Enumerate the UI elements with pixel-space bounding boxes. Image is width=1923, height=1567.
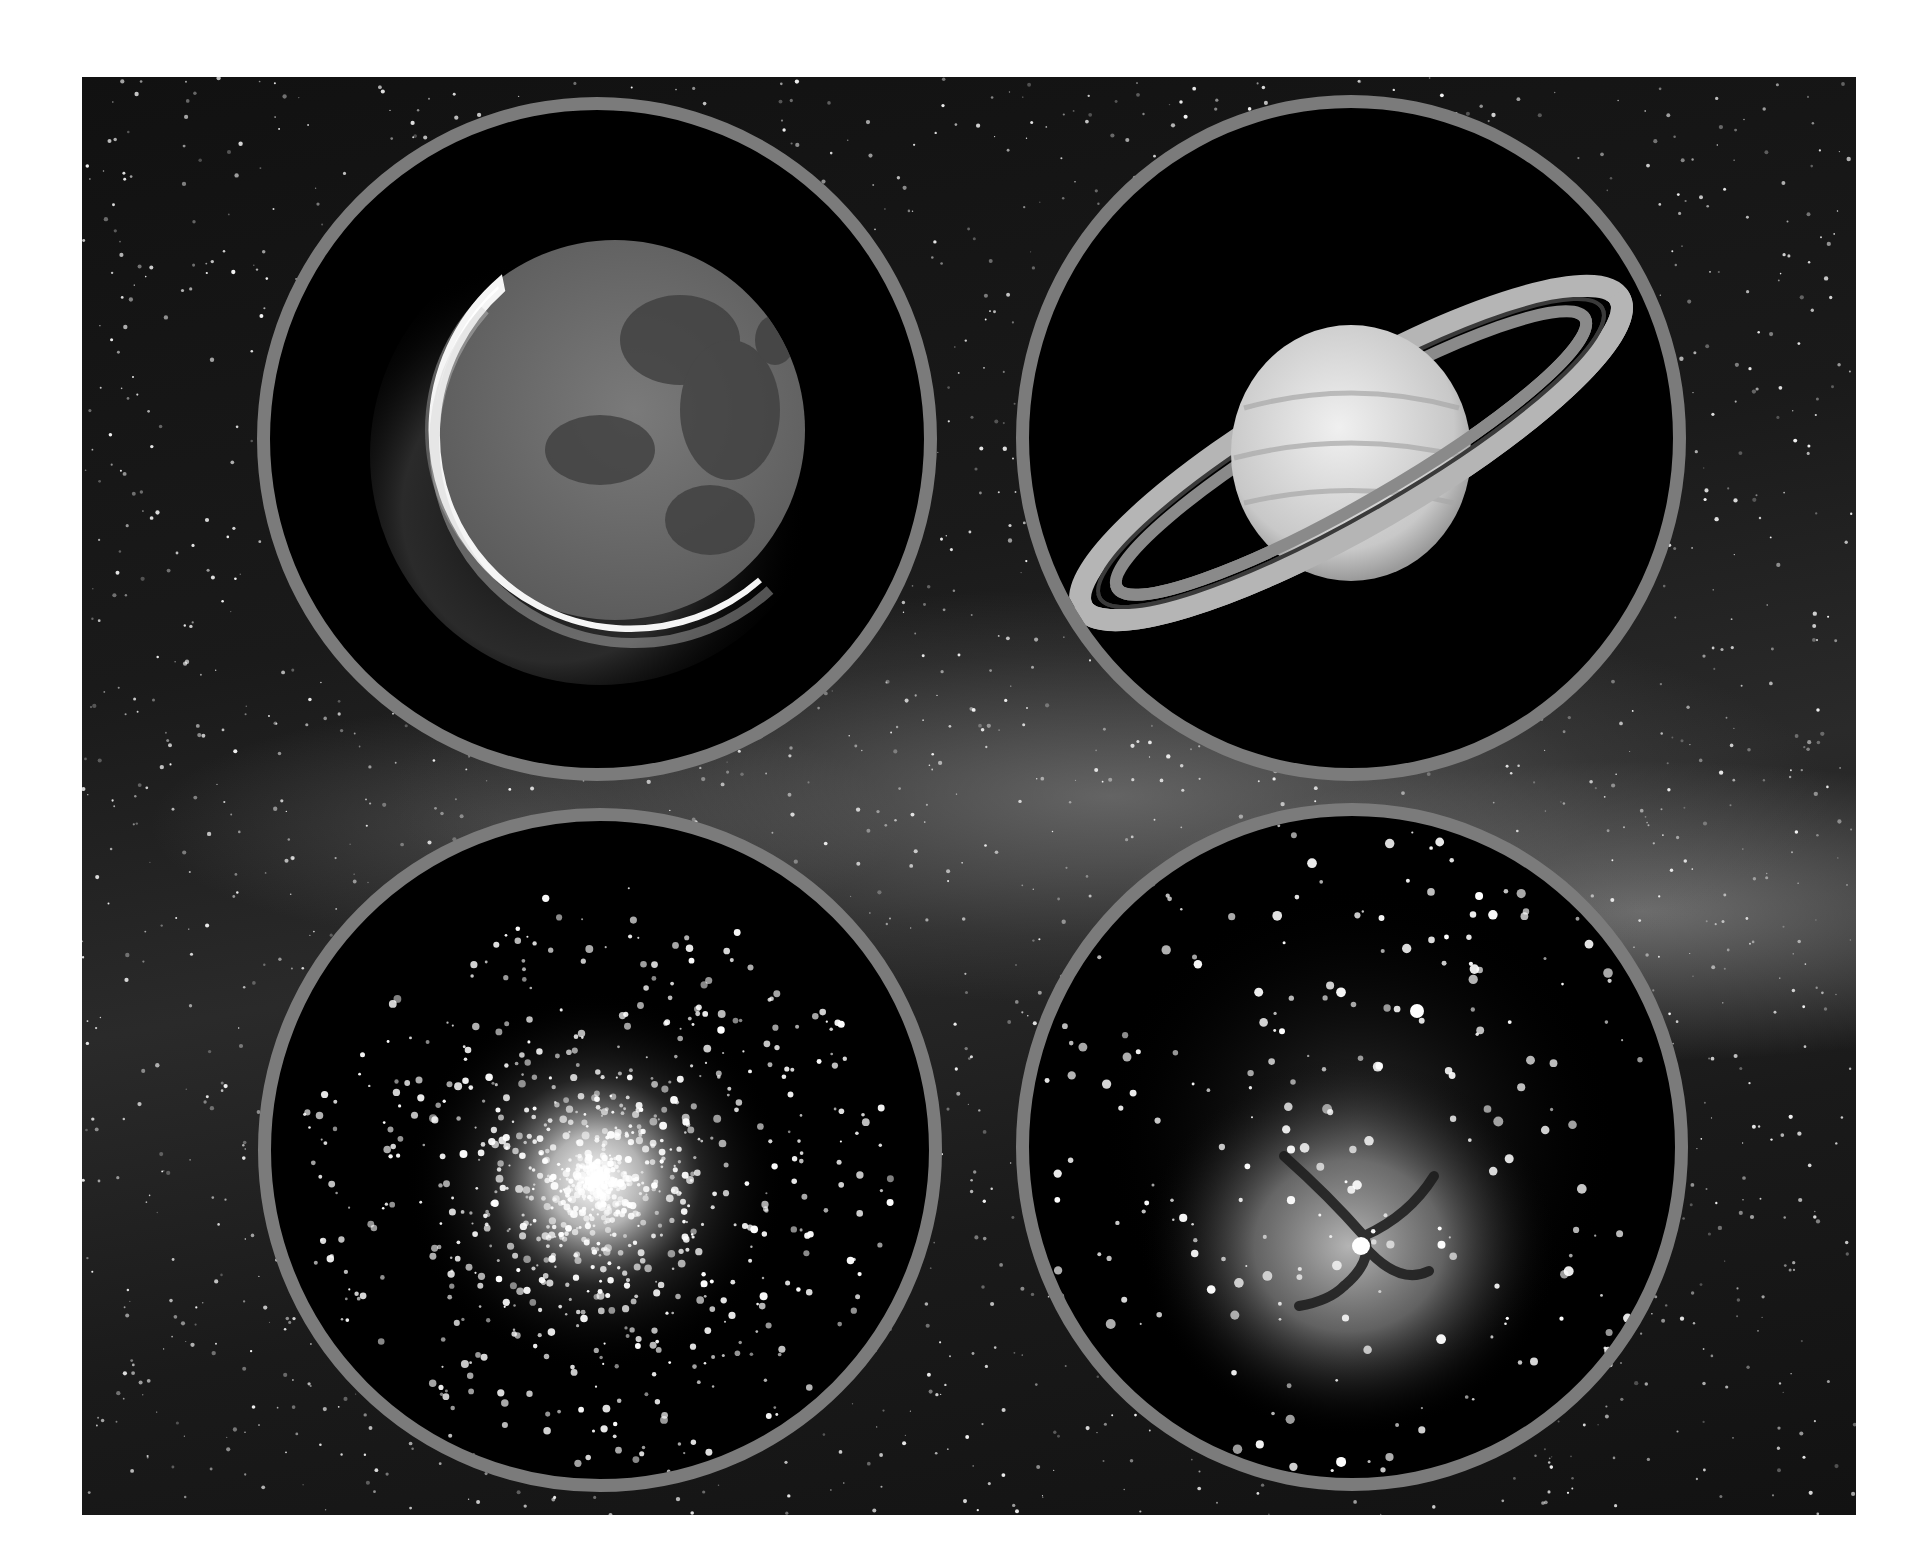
globular-cluster-inset [258,808,942,1492]
crescent-moon-icon [270,110,924,768]
saturn-inset [1016,95,1686,781]
nebula-icon [1029,816,1675,1478]
star-cluster-icon [271,821,929,1479]
saturn-icon [1029,108,1673,768]
moon-inset [257,97,937,781]
trifid-nebula-inset [1016,803,1688,1491]
milky-way-background [82,77,1856,1515]
